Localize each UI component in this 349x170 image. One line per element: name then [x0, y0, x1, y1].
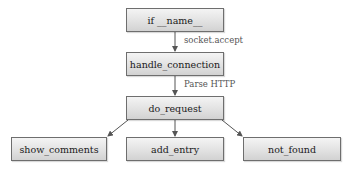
edge-do-request-to-show-comments [108, 120, 128, 136]
node-not-found: not_found [243, 137, 341, 161]
node-main: if __name__ [126, 8, 224, 32]
edge-do-request-to-not-found [222, 120, 242, 136]
node-handle-connection: handle_connection [126, 52, 224, 76]
node-do-request: do_request [126, 96, 224, 120]
edge-label-socket-accept: socket.accept [184, 35, 243, 45]
flowchart-diagram: if __name__ socket.accept handle_connect… [0, 0, 349, 170]
edge-label-parse-http: Parse HTTP [184, 79, 235, 89]
node-add-entry: add_entry [126, 137, 224, 161]
node-show-comments: show_comments [11, 137, 107, 161]
